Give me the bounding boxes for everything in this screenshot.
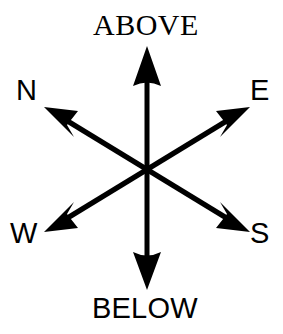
label-above: ABOVE (93, 10, 199, 40)
label-west: W (10, 219, 37, 248)
below-arrowhead (133, 252, 161, 290)
orientation-compass-diagram: ABOVE BELOW N E W S (0, 0, 283, 334)
above-arrowhead (133, 46, 161, 86)
label-east: E (250, 76, 269, 105)
label-below: BELOW (92, 294, 198, 323)
label-north: N (16, 76, 37, 105)
label-south: S (250, 219, 269, 248)
compass-arrows-graphic (0, 0, 283, 334)
vertical-axis (133, 46, 161, 290)
